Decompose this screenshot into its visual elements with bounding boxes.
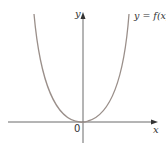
y-axis-label: y <box>75 8 81 19</box>
y-axis-arrow-icon <box>81 12 86 19</box>
function-graph <box>0 0 166 148</box>
curve-f <box>34 14 129 122</box>
origin-label: 0 <box>74 123 80 134</box>
x-axis-label: x <box>153 124 159 135</box>
curve-label: y = f(x) <box>134 10 166 21</box>
